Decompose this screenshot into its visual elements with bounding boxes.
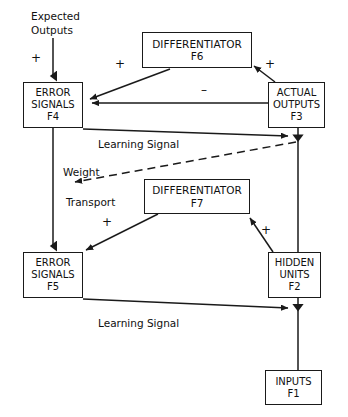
actual-outputs-f3-line1: ACTUAL: [277, 87, 317, 99]
hidden-units-f2-line2: UNITS: [279, 269, 309, 281]
error-signals-f5-line1: ERROR: [35, 257, 70, 269]
differentiator-f6-line2: F6: [191, 50, 204, 62]
hidden-units-f2-line1: HIDDEN: [275, 257, 315, 269]
edge-f7-to-f5: [86, 214, 158, 250]
differentiator-f7-line1: DIFFERENTIATOR: [152, 184, 242, 196]
inputs-f1-box[interactable]: INPUTS F1: [265, 370, 322, 405]
learning-signal-label-top: Learning Signal: [98, 138, 179, 151]
weight-label: Weight: [63, 166, 100, 179]
error-signals-f5-line2: SIGNALS: [31, 269, 74, 281]
plus-sign-f3-to-f6: +: [265, 58, 275, 70]
error-signals-f4-line3: F4: [47, 111, 59, 123]
expected-outputs-label: Expected: [31, 10, 80, 23]
error-signals-f5-box[interactable]: ERROR SIGNALS F5: [23, 252, 83, 298]
error-signals-f4-line1: ERROR: [35, 87, 70, 99]
actual-outputs-f3-line2: OUTPUTS: [273, 99, 320, 111]
learning-signal-label-bottom: Learning Signal: [98, 317, 179, 330]
inputs-f1-line2: F1: [287, 388, 299, 400]
differentiator-f6-box[interactable]: DIFFERENTIATOR F6: [142, 32, 252, 68]
minus-sign-f3-to-f4: –: [201, 84, 207, 96]
expected-outputs-label-line2: Outputs: [31, 24, 73, 37]
inputs-f1-line1: INPUTS: [275, 376, 311, 388]
edge-f5-learning-signal-to-f2: [83, 299, 288, 308]
differentiator-f6-line1: DIFFERENTIATOR: [152, 38, 242, 50]
hidden-units-f2-line3: F2: [288, 281, 300, 293]
actual-outputs-f3-box[interactable]: ACTUAL OUTPUTS F3: [268, 82, 325, 128]
plus-sign-f7-to-f5: +: [102, 216, 112, 228]
error-signals-f4-line2: SIGNALS: [31, 99, 74, 111]
diagram-canvas: DIFFERENTIATOR F6 ACTUAL OUTPUTS F3 ERRO…: [0, 0, 348, 417]
differentiator-f7-box[interactable]: DIFFERENTIATOR F7: [144, 179, 250, 214]
edge-f4-learning-signal-to-f3: [83, 129, 288, 136]
error-signals-f5-line3: F5: [47, 281, 59, 293]
edge-f6-to-f4: [90, 69, 170, 99]
error-signals-f4-box[interactable]: ERROR SIGNALS F4: [23, 82, 83, 128]
differentiator-f7-line2: F7: [191, 197, 204, 209]
hidden-units-f2-box[interactable]: HIDDEN UNITS F2: [268, 252, 321, 298]
plus-sign-f6-output: +: [115, 58, 125, 70]
bus-arrowhead-f2-down: [292, 304, 303, 312]
bus-arrowhead-f3-down: [292, 134, 303, 142]
plus-sign-f2-to-f7: +: [261, 224, 271, 236]
actual-outputs-f3-line3: F3: [290, 111, 302, 123]
transport-label: Transport: [66, 196, 115, 209]
plus-sign-expected-outputs: +: [31, 52, 41, 64]
